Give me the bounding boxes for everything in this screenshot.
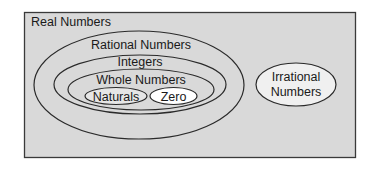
whole-numbers-label: Whole Numbers: [96, 73, 186, 87]
zero-label: Zero: [161, 90, 187, 104]
irrational-numbers-label-line1: Irrational: [272, 70, 321, 84]
real-numbers-diagram: Real Numbers Rational Numbers Integers W…: [0, 0, 372, 170]
real-numbers-label: Real Numbers: [31, 15, 111, 29]
naturals-label: Naturals: [93, 90, 140, 104]
irrational-numbers-label-line2: Numbers: [271, 85, 322, 99]
rational-numbers-label: Rational Numbers: [91, 38, 191, 52]
integers-label: Integers: [117, 55, 162, 69]
